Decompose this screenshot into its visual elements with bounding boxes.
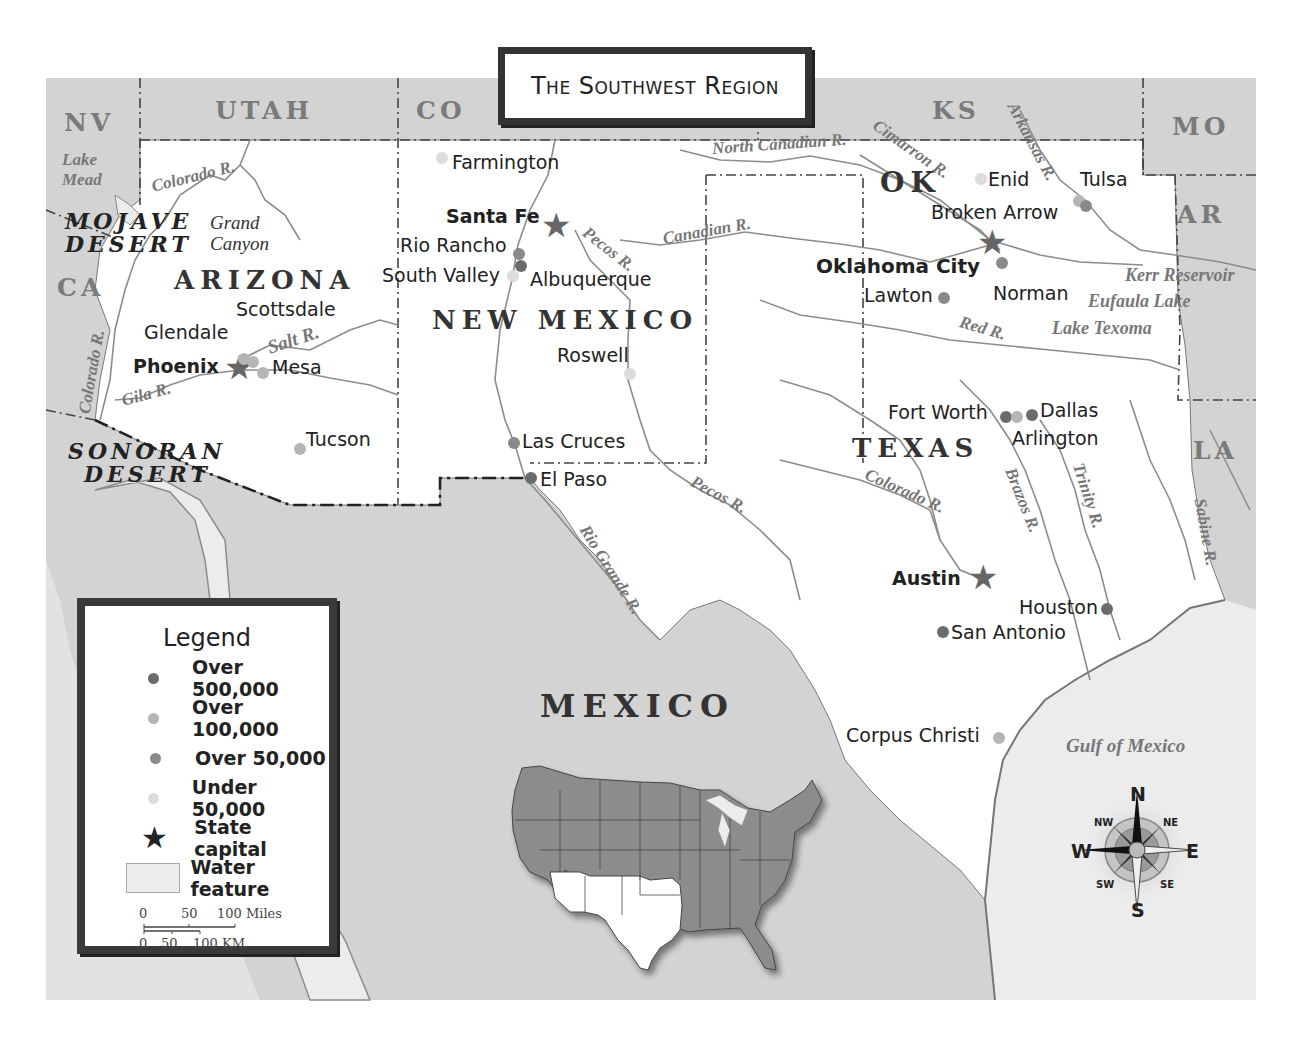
dot-icon — [150, 753, 161, 764]
city-label-scottsdale: Scottsdale — [236, 300, 336, 319]
city-label-roswell: Roswell — [557, 346, 629, 365]
scale-mile-tick-0: 0 — [139, 906, 147, 921]
legend-label: State capital — [194, 816, 329, 860]
city-label-fort-worth: Fort Worth — [888, 403, 988, 422]
state-label-ar: AR — [1177, 202, 1225, 227]
legend-label: Over 100,000 — [192, 696, 329, 740]
city-dot-houston — [1101, 603, 1113, 615]
city-label-tucson: Tucson — [306, 430, 371, 449]
scale-km-tick-100: 100 KM — [193, 936, 245, 951]
city-dot-albuquerque — [515, 260, 527, 272]
legend-label: Under 50,000 — [192, 776, 329, 820]
mojave-desert-label: MOJAVE DESERT — [65, 210, 192, 256]
city-dot-rio-rancho — [513, 248, 525, 260]
compass-east: E — [1186, 840, 1199, 862]
legend-item-state-capital: ★ State capital — [125, 823, 329, 853]
map-title: The Southwest Region — [531, 72, 779, 100]
state-label-co: CO — [416, 98, 466, 123]
compass-west: W — [1071, 840, 1092, 862]
grand-canyon-line-2: Canyon — [210, 234, 269, 255]
legend-label: Over 500,000 — [192, 656, 329, 700]
scale-bar: 0 50 100 Miles 0 50 100 KM — [133, 906, 313, 954]
southwest-region-map: The Southwest Region NV UTAH CO KS MO AR… — [0, 0, 1291, 1041]
water-swatch-icon — [126, 863, 180, 893]
city-label-austin: Austin — [892, 569, 961, 588]
state-label-texas: TEXAS — [852, 435, 979, 461]
country-label-mexico: MEXICO — [540, 690, 735, 722]
legend-item-water-feature: Water feature — [125, 863, 329, 893]
capital-star-icon: ★ — [977, 225, 1007, 259]
city-label-glendale: Glendale — [144, 323, 228, 342]
city-label-oklahoma-city: Oklahoma City — [816, 256, 980, 276]
city-dot-roswell — [624, 368, 636, 380]
eufaula-lake-label: Eufaula Lake — [1088, 292, 1191, 310]
compass-north: N — [1130, 783, 1146, 805]
city-dot-south-valley — [507, 270, 519, 282]
legend-item-under-50000: Under 50,000 — [125, 783, 329, 813]
city-dot-norman — [996, 257, 1008, 269]
gulf-of-mexico-label: Gulf of Mexico — [1066, 736, 1185, 755]
city-label-las-cruces: Las Cruces — [522, 432, 625, 451]
legend-item-over-500000: Over 500,000 — [125, 663, 329, 693]
dot-icon — [148, 713, 159, 724]
city-label-arlington: Arlington — [1012, 429, 1099, 448]
city-label-dallas: Dallas — [1040, 401, 1098, 420]
state-label-ks: KS — [932, 98, 980, 123]
city-dot-el-paso — [525, 472, 537, 484]
city-label-tulsa: Tulsa — [1080, 170, 1128, 189]
state-label-new-mexico: NEW MEXICO — [432, 307, 698, 333]
city-label-lawton: Lawton — [864, 286, 933, 305]
lake-texoma-label: Lake Texoma — [1052, 319, 1152, 337]
mojave-line-2: DESERT — [65, 233, 192, 256]
city-label-farmington: Farmington — [452, 153, 559, 172]
lake-mead-line-2: Mead — [62, 170, 102, 190]
scale-km-tick-50: 50 — [161, 936, 178, 951]
state-label-nv: NV — [64, 110, 114, 135]
city-dot-san-antonio — [937, 626, 949, 638]
city-dot-scottsdale — [247, 356, 259, 368]
city-dot-broken-arrow — [1080, 200, 1092, 212]
city-dot-enid — [975, 173, 987, 185]
grand-canyon-line-1: Grand — [210, 213, 269, 234]
city-dot-farmington — [436, 152, 448, 164]
city-label-el-paso: El Paso — [540, 470, 607, 489]
scale-km-tick-0: 0 — [139, 936, 147, 951]
city-dot-corpus-christi — [993, 732, 1005, 744]
grand-canyon-label: Grand Canyon — [210, 213, 269, 255]
city-label-albuquerque: Albuquerque — [530, 270, 651, 289]
dot-icon — [148, 793, 159, 804]
compass-northeast: NE — [1163, 817, 1178, 828]
map-title-box: The Southwest Region — [498, 47, 812, 125]
city-dot-lawton — [938, 292, 950, 304]
sonoran-line-1: SONORAN — [68, 440, 226, 463]
compass-southeast: SE — [1160, 879, 1174, 890]
kerr-reservoir-label: Kerr Reservoir — [1125, 266, 1235, 284]
city-label-mesa: Mesa — [272, 358, 322, 377]
scale-mile-tick-100: 100 Miles — [217, 906, 282, 921]
city-label-corpus-christi: Corpus Christi — [846, 726, 980, 745]
sonoran-line-2: DESERT — [68, 463, 226, 486]
state-label-la: LA — [1193, 438, 1238, 463]
city-dot-mesa — [257, 367, 269, 379]
legend-item-over-50000: Over 50,000 — [125, 743, 326, 773]
lake-mead-line-1: Lake — [62, 150, 102, 170]
state-label-arizona: ARIZONA — [174, 267, 356, 293]
city-label-san-antonio: San Antonio — [951, 623, 1066, 642]
star-icon: ★ — [141, 823, 168, 853]
city-label-enid: Enid — [988, 170, 1029, 189]
sonoran-desert-label: SONORAN DESERT — [68, 440, 226, 486]
city-dot-arlington — [1011, 411, 1023, 423]
scale-mile-tick-50: 50 — [181, 906, 198, 921]
compass-southwest: SW — [1096, 879, 1114, 890]
city-label-broken-arrow: Broken Arrow — [931, 203, 1058, 222]
city-label-phoenix: Phoenix — [133, 357, 219, 376]
dot-icon — [148, 673, 159, 684]
capital-star-icon: ★ — [968, 560, 998, 594]
legend-label: Over 50,000 — [195, 747, 326, 769]
compass-northwest: NW — [1094, 817, 1113, 828]
capital-star-icon: ★ — [541, 208, 571, 242]
legend-item-over-100000: Over 100,000 — [125, 703, 329, 733]
city-label-norman: Norman — [993, 284, 1069, 303]
city-label-houston: Houston — [1019, 598, 1098, 617]
scale-bar-graphic — [143, 924, 263, 934]
